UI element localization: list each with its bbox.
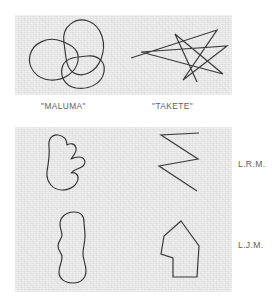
figure-root: "MALUMA" "TAKETE" L.R.M. L.J.M. (0, 0, 276, 305)
takete-reference-drawing (131, 28, 229, 84)
takete-drawing-lrm (155, 132, 207, 194)
maluma-reference-drawing (28, 17, 108, 93)
maluma-drawing-lrm (44, 130, 106, 192)
maluma-drawing-ljm (52, 210, 100, 284)
caption-takete: "TAKETE" (152, 101, 193, 111)
subject-label-lrm: L.R.M. (238, 159, 265, 169)
takete-drawing-ljm (157, 220, 207, 280)
subject-label-ljm: L.J.M. (238, 240, 264, 250)
caption-maluma: "MALUMA" (41, 101, 86, 111)
